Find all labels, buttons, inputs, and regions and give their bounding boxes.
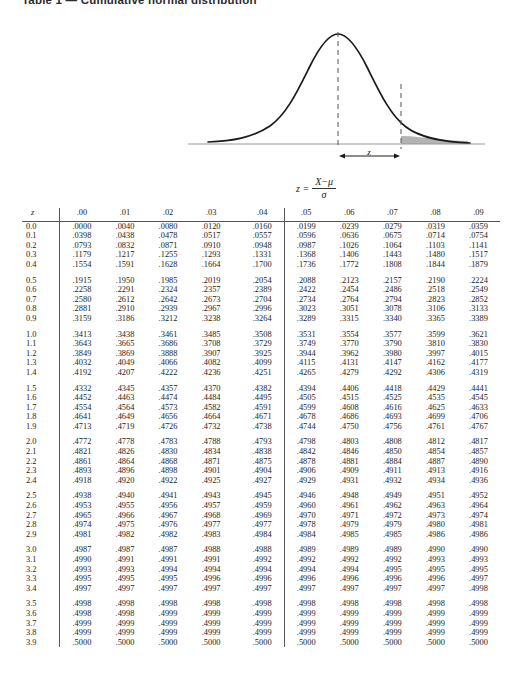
table-cell: .4997 xyxy=(146,584,189,594)
table-cell: .4988 xyxy=(190,545,233,555)
table-cell: .5000 xyxy=(60,638,104,648)
table-cell: .4812 xyxy=(414,437,457,447)
table-cell: .4998 xyxy=(103,609,146,619)
row-z-value: 2.5 xyxy=(22,491,60,501)
table-cell: .4726 xyxy=(146,422,189,432)
header-col-d03: .03 xyxy=(190,208,233,221)
table-cell: .4767 xyxy=(457,422,500,432)
table-cell: .4982 xyxy=(146,530,189,540)
table-cell: .4838 xyxy=(233,447,285,457)
table-cell: .1480 xyxy=(414,250,457,260)
table-cell: .1443 xyxy=(371,250,414,260)
table-cell: .4772 xyxy=(60,437,104,447)
table-cell: .3438 xyxy=(103,330,146,340)
table-cell: .3997 xyxy=(414,349,457,359)
table-cell: .4981 xyxy=(60,530,104,540)
table-cell: .2794 xyxy=(371,295,414,305)
table-cell: .0359 xyxy=(457,221,500,231)
table-cell: .4641 xyxy=(60,412,104,422)
table-cell: .3599 xyxy=(414,330,457,340)
table-cell: .2389 xyxy=(233,285,285,295)
table-cell: .4875 xyxy=(233,457,285,467)
z-table-body: 0.0.0000.0040.0080.0120.0160.0199.0239.0… xyxy=(22,221,500,647)
row-z-value: 3.7 xyxy=(22,619,60,629)
row-z-value: 0.7 xyxy=(22,295,60,305)
table-cell: .5000 xyxy=(190,638,233,648)
row-z-value: 1.4 xyxy=(22,368,60,378)
formula-denominator: σ xyxy=(312,189,336,201)
table-cell: .4699 xyxy=(414,412,457,422)
table-cell: .0871 xyxy=(146,241,189,251)
table-cell: .0040 xyxy=(103,221,146,231)
table-cell: .2764 xyxy=(328,295,371,305)
table-cell: .3106 xyxy=(414,304,457,314)
table-row: 1.1.3643.3665.3686.3708.3729.3749.3770.3… xyxy=(22,339,500,349)
table-cell: .4952 xyxy=(457,491,500,501)
table-cell: .4972 xyxy=(371,511,414,521)
table-row: 0.2.0793.0832.0871.0910.0948.0987.1026.1… xyxy=(22,241,500,251)
table-cell: .4999 xyxy=(284,619,328,629)
table-cell: .4251 xyxy=(233,368,285,378)
table-cell: .4922 xyxy=(146,476,189,486)
table-cell: .0120 xyxy=(190,221,233,231)
table-row: 1.2.3849.3869.3888.3907.3925.3944.3962.3… xyxy=(22,349,500,359)
table-cell: .4678 xyxy=(284,412,328,422)
z-table-header-row: z .00.01.02.03.04.05.06.07.08.09 xyxy=(22,208,500,221)
header-col-d00: .00 xyxy=(60,208,104,221)
header-col-d06: .06 xyxy=(328,208,371,221)
table-cell: .3770 xyxy=(328,339,371,349)
table-cell: .4966 xyxy=(103,511,146,521)
table-cell: .4991 xyxy=(146,555,189,565)
table-cell: .4066 xyxy=(146,358,189,368)
table-cell: .1844 xyxy=(414,260,457,270)
table-cell: .0675 xyxy=(371,231,414,241)
table-cell: .2088 xyxy=(284,276,328,286)
table-cell: .4896 xyxy=(103,466,146,476)
table-cell: .1368 xyxy=(284,250,328,260)
table-cell: .4987 xyxy=(103,545,146,555)
table-cell: .4890 xyxy=(457,457,500,467)
table-cell: .4319 xyxy=(457,368,500,378)
table-row: 3.1.4990.4991.4991.4991.4992.4992.4992.4… xyxy=(22,555,500,565)
table-cell: .3888 xyxy=(146,349,189,359)
table-cell: .4999 xyxy=(457,619,500,629)
table-cell: .4878 xyxy=(284,457,328,467)
table-cell: .0279 xyxy=(371,221,414,231)
table-cell: .4564 xyxy=(103,403,146,413)
table-cell: .4808 xyxy=(371,437,414,447)
table-cell: .4997 xyxy=(233,584,285,594)
table-cell: .4978 xyxy=(284,520,328,530)
table-cell: .4738 xyxy=(233,422,285,432)
table-cell: .4535 xyxy=(414,393,457,403)
table-cell: .0000 xyxy=(60,221,104,231)
table-cell: .4988 xyxy=(233,545,285,555)
table-cell: .4099 xyxy=(233,358,285,368)
table-cell: .4994 xyxy=(233,565,285,575)
table-cell: .4998 xyxy=(190,599,233,609)
table-cell: .4968 xyxy=(190,511,233,521)
z-table: z .00.01.02.03.04.05.06.07.08.09 0.0.000… xyxy=(22,208,500,647)
table-cell: .4871 xyxy=(190,457,233,467)
table-cell: .4830 xyxy=(146,447,189,457)
table-cell: .4980 xyxy=(414,520,457,530)
table-cell: .2123 xyxy=(328,276,371,286)
table-row: 3.3.4995.4995.4995.4996.4996.4996.4996.4… xyxy=(22,574,500,584)
table-cell: .3869 xyxy=(103,349,146,359)
row-z-value: 3.9 xyxy=(22,638,60,648)
table-cell: .4993 xyxy=(103,565,146,575)
table-cell: .4996 xyxy=(371,574,414,584)
table-cell: .4999 xyxy=(60,628,104,638)
z-score-formula: z =X−μσ xyxy=(296,176,416,200)
row-z-value: 2.3 xyxy=(22,466,60,476)
table-row: 0.7.2580.2612.2642.2673.2704.2734.2764.2… xyxy=(22,295,500,305)
table-cell: .4418 xyxy=(371,384,414,394)
table-row: 3.4.4997.4997.4997.4997.4997.4997.4997.4… xyxy=(22,584,500,594)
table-cell: .3159 xyxy=(60,314,104,324)
row-z-value: 1.0 xyxy=(22,330,60,340)
table-cell: .4998 xyxy=(146,599,189,609)
table-cell: .0398 xyxy=(60,231,104,241)
table-cell: .4959 xyxy=(233,501,285,511)
row-z-value: 3.3 xyxy=(22,574,60,584)
table-cell: .3708 xyxy=(190,339,233,349)
table-cell: .0199 xyxy=(284,221,328,231)
